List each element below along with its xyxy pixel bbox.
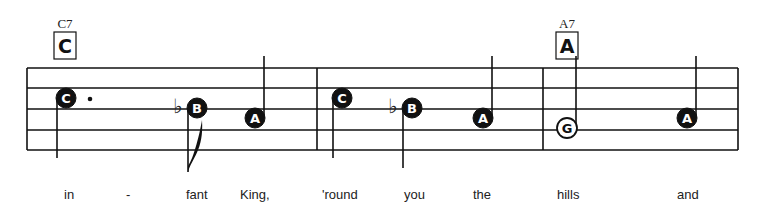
flat-icon: ♭ <box>173 94 182 118</box>
note-c: C <box>56 88 92 158</box>
note-a: A <box>245 56 265 128</box>
note-letter: C <box>61 91 71 106</box>
lyric-syllable: you <box>404 187 425 202</box>
flat-icon: ♭ <box>388 94 397 118</box>
lyric-syllable: the <box>473 187 491 202</box>
lyrics: in-fantKing,'roundyouthehillsand <box>64 187 699 202</box>
note-b: ♭B <box>173 94 207 172</box>
note-letter: B <box>407 101 417 116</box>
note-c: C <box>332 88 352 158</box>
note-letter: C <box>337 91 347 106</box>
lyric-syllable: 'round <box>322 187 358 202</box>
notes: C♭BAC♭BAGA <box>56 56 697 172</box>
lyric-syllable: and <box>677 187 699 202</box>
lyric-syllable: in <box>64 187 74 202</box>
lyric-syllable: King, <box>240 187 270 202</box>
sheet-music: C7CA7A C♭BAC♭BAGA in-fantKing,'roundyout… <box>0 0 778 216</box>
note-letter: A <box>478 111 488 126</box>
note-b: ♭B <box>388 94 422 168</box>
augmentation-dot <box>88 97 93 102</box>
chord-box-letter: A <box>560 35 575 57</box>
note-letter: A <box>682 111 692 126</box>
staff-lines <box>27 68 738 150</box>
chord-box-letter: C <box>58 35 72 57</box>
chord-symbols: C7CA7A <box>54 16 578 59</box>
note-a: A <box>473 56 493 128</box>
chord-symbol: A7A <box>556 16 578 59</box>
lyric-syllable: fant <box>186 187 208 202</box>
chord-symbol: C7C <box>54 16 76 59</box>
chord-name: C7 <box>57 16 73 31</box>
eighth-flag <box>188 120 202 172</box>
note-a: A <box>677 56 697 128</box>
note-letter: A <box>250 111 260 126</box>
chord-name: A7 <box>559 16 575 31</box>
lyric-syllable: - <box>126 187 130 202</box>
note-letter: B <box>192 101 202 116</box>
lyric-syllable: hills <box>557 187 580 202</box>
staff-canvas: C7CA7A C♭BAC♭BAGA in-fantKing,'roundyout… <box>0 0 778 216</box>
note-letter: G <box>562 121 573 136</box>
